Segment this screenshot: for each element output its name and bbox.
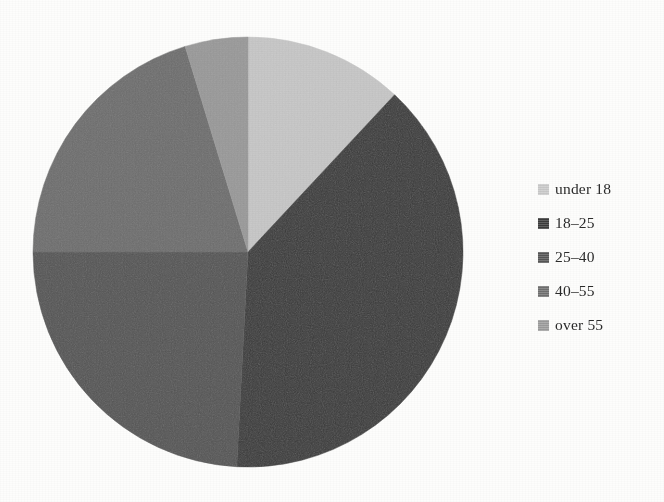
legend-swatch-icon [538,218,549,229]
legend-swatch-icon [538,286,549,297]
legend-label: under 18 [555,181,611,197]
pie-chart [18,22,478,482]
legend-item-under-18: under 18 [538,172,658,206]
legend-item-40-55: 40–55 [538,274,658,308]
pie-slice-25-40 [33,252,248,467]
pie-chart-figure: under 18 18–25 25–40 40–55 over 55 [0,0,664,502]
legend-swatch-icon [538,184,549,195]
legend-swatch-icon [538,320,549,331]
chart-legend: under 18 18–25 25–40 40–55 over 55 [538,172,658,342]
legend-label: over 55 [555,317,603,333]
pie-slice-group [33,37,463,467]
legend-label: 25–40 [555,249,595,265]
legend-item-over-55: over 55 [538,308,658,342]
pie-svg [18,22,478,482]
legend-item-18-25: 18–25 [538,206,658,240]
legend-swatch-icon [538,252,549,263]
legend-label: 40–55 [555,283,595,299]
legend-item-25-40: 25–40 [538,240,658,274]
legend-label: 18–25 [555,215,595,231]
